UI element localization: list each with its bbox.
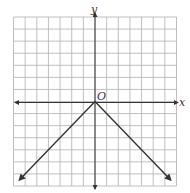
y-axis-label: y <box>90 3 98 16</box>
origin-label: O <box>97 90 106 103</box>
x-axis-label: x <box>179 96 186 109</box>
coordinate-plane: x y O <box>0 0 190 193</box>
